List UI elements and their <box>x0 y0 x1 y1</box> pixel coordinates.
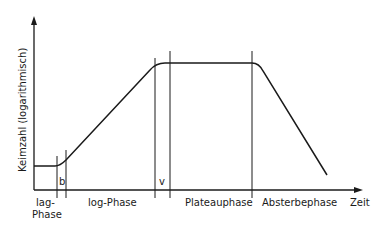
phase-label-plateau: Plateauphase <box>185 197 253 208</box>
y-axis-arrow-icon <box>31 16 37 25</box>
x-axis-arrow-icon <box>354 187 363 193</box>
marker-b: b <box>59 176 65 187</box>
growth-curve <box>34 63 327 175</box>
x-axis-label: Zeit <box>350 197 370 208</box>
phase-label-death: Absterbephase <box>262 197 337 208</box>
phase-label-lag-line1: lag- <box>36 197 55 208</box>
growth-curve-diagram: b v lag- Phase log-Phase Plateauphase Ab… <box>0 0 384 226</box>
phase-label-lag-line2: Phase <box>32 209 62 220</box>
marker-v: v <box>159 176 165 187</box>
y-axis-label: Keimzahl (logarithmisch) <box>17 48 28 172</box>
phase-label-log: log-Phase <box>88 197 137 208</box>
